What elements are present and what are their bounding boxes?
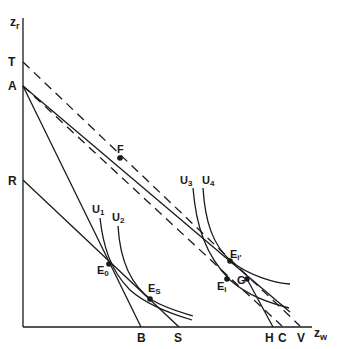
- label-U4: U4: [202, 174, 215, 188]
- point-Ei: [224, 276, 230, 282]
- line-A-C: [23, 86, 290, 312]
- label-R: R: [8, 174, 17, 188]
- label-U2: U2: [112, 211, 125, 225]
- point-F: [117, 155, 123, 161]
- label-T: T: [8, 55, 16, 69]
- label-C: C: [278, 331, 287, 345]
- x-axis-label: zw: [314, 326, 328, 342]
- label-Ei-prime: Ei′: [230, 248, 242, 262]
- label-S: S: [174, 331, 182, 345]
- point-ES: [147, 296, 153, 302]
- label-F: F: [117, 143, 124, 155]
- indifference-curve-U3: [193, 188, 289, 308]
- line-T-V-dashed: [23, 62, 300, 326]
- label-Ei: Ei: [217, 280, 227, 294]
- line-A-B: [23, 86, 141, 327]
- label-B: B: [137, 331, 146, 345]
- indifference-curve-U1: [100, 218, 192, 320]
- line-R-S: [23, 180, 179, 327]
- indifference-curve-U4: [203, 188, 290, 284]
- label-V: V: [297, 331, 305, 345]
- label-U3: U3: [180, 174, 193, 188]
- label-ES: ES: [148, 282, 161, 296]
- point-E0: [106, 261, 112, 267]
- diagram: zr zw T A R B S H C V U1 U2 U3 U4 F E0 E…: [0, 0, 339, 349]
- label-U1: U1: [92, 203, 105, 217]
- label-H: H: [265, 331, 274, 345]
- label-G: G: [237, 274, 246, 286]
- y-axis-label: zr: [10, 15, 20, 31]
- label-A: A: [8, 79, 17, 93]
